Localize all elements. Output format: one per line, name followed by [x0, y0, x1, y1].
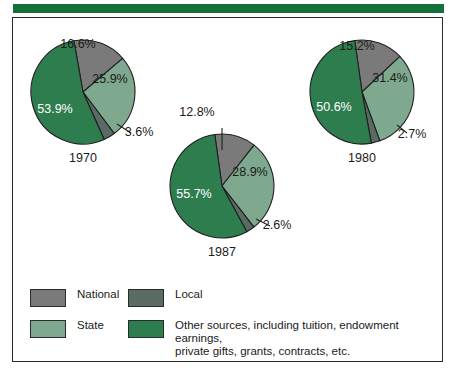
legend-swatch-other-sources — [128, 320, 164, 338]
legend-row: National Local — [30, 288, 430, 307]
legend-swatch-national — [30, 289, 66, 307]
legend-swatch-state — [30, 320, 66, 338]
legend-item-national[interactable]: National — [30, 288, 128, 307]
legend-swatch-local — [128, 289, 164, 307]
legend-row: State Other sources, including tuition, … — [30, 319, 430, 358]
figure-container: 16.6%25.9%3.6%53.9%197012.8%28.9%2.6%55.… — [0, 0, 456, 376]
legend: National Local State Other sources, incl… — [30, 288, 430, 370]
legend-label-other-sources: Other sources, including tuition, endowm… — [175, 319, 430, 358]
legend-label-national: National — [77, 288, 119, 301]
legend-item-other-sources[interactable]: Other sources, including tuition, endowm… — [128, 319, 430, 358]
header-accent-rule — [13, 4, 444, 13]
legend-label-state: State — [77, 319, 104, 332]
legend-label-local: Local — [175, 288, 203, 301]
legend-item-local[interactable]: Local — [128, 288, 203, 307]
legend-item-state[interactable]: State — [30, 319, 128, 338]
